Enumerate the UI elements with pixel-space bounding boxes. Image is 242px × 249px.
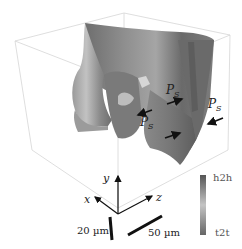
colorbar-bottom-label: t2t <box>215 228 229 238</box>
arrow-icon <box>208 118 223 124</box>
scale-bar-20um <box>110 217 112 240</box>
x-axis-label: x <box>84 194 90 205</box>
polarization-label: PS <box>166 84 180 99</box>
domain-wall-figure: PS PS PS y x z 20 µm 50 µm h2h t2t <box>0 0 242 249</box>
figure-canvas <box>0 0 242 249</box>
colorbar-top-label: h2h <box>213 173 232 183</box>
polarization-label: PS <box>208 98 222 113</box>
colorbar <box>200 175 206 235</box>
scale-label-50um: 50 µm <box>148 228 180 238</box>
scale-label-20um: 20 µm <box>77 226 109 236</box>
y-axis-label: y <box>103 173 109 184</box>
polarization-label: PS <box>140 116 154 131</box>
domain-wall-surface <box>72 23 214 165</box>
z-axis-label: z <box>156 192 162 203</box>
